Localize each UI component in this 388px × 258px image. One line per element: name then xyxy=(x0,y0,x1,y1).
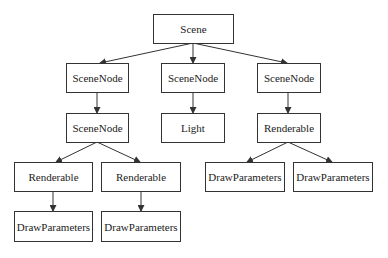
node-scenenode-c: SceneNode xyxy=(257,63,321,93)
edge-child-renderable-a1 xyxy=(56,142,97,162)
node-light: Light xyxy=(161,113,225,143)
node-scenenode-a-child: SceneNode xyxy=(66,113,129,143)
node-renderable-a1: Renderable xyxy=(14,162,93,192)
edge-child-renderable-a2 xyxy=(97,142,140,162)
node-scenenode-a: SceneNode xyxy=(66,63,129,93)
node-scenenode-b: SceneNode xyxy=(161,63,225,93)
edge-renderable-c-drawparams-c2 xyxy=(288,142,332,162)
node-drawparams-c1: DrawParameters xyxy=(205,162,285,192)
edge-scene-scenenode-c xyxy=(193,43,287,63)
node-drawparams-a1: DrawParameters xyxy=(14,211,93,242)
node-renderable-c: Renderable xyxy=(257,113,321,143)
edge-scene-scenenode-a xyxy=(100,43,193,63)
node-renderable-a2: Renderable xyxy=(101,162,181,192)
node-drawparams-a2: DrawParameters xyxy=(101,211,181,242)
node-scene: Scene xyxy=(153,14,234,44)
edge-renderable-c-drawparams-c1 xyxy=(247,142,288,162)
node-drawparams-c2: DrawParameters xyxy=(293,162,373,192)
